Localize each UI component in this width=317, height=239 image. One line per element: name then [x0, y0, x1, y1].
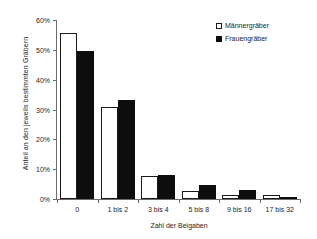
bar-maennergraeber	[101, 107, 118, 199]
bar-maennergraeber	[182, 191, 199, 199]
bar-group	[222, 20, 256, 199]
y-tick-label: 20%	[36, 136, 50, 143]
bar-frauengraeber	[118, 100, 135, 199]
bar-group	[263, 20, 297, 199]
x-tick-label: 0	[75, 206, 79, 213]
y-axis-ticks: 0%10%20%30%40%50%60%	[0, 0, 57, 239]
bar-frauengraeber	[77, 51, 94, 199]
x-tick-mark	[179, 199, 180, 203]
x-tick-mark	[57, 199, 58, 203]
y-tick-label: 60%	[36, 17, 50, 24]
y-tick-label: 30%	[36, 106, 50, 113]
x-tick-mark	[98, 199, 99, 203]
x-tick-label: 9 bis 16	[227, 206, 252, 213]
y-tick-label: 50%	[36, 46, 50, 53]
x-tick-mark	[300, 199, 301, 203]
bar-group	[182, 20, 216, 199]
x-tick-mark	[260, 199, 261, 203]
x-tick-label: 5 bis 8	[188, 206, 209, 213]
bar-frauengraeber	[199, 185, 216, 199]
bar-maennergraeber	[141, 176, 158, 199]
legend-item[interactable]: Frauengräber	[216, 33, 269, 44]
plot-area	[57, 20, 300, 199]
x-tick-label: 17 bis 32	[266, 206, 294, 213]
legend-label: Männergräber	[225, 22, 269, 29]
legend-item[interactable]: Männergräber	[216, 20, 269, 31]
bar-group	[60, 20, 94, 199]
bar-chart: Anteil an den jeweils bestimmten Gräbern…	[0, 0, 317, 239]
y-tick-label: 40%	[36, 76, 50, 83]
y-tick-label: 10%	[36, 166, 50, 173]
x-tick-mark	[219, 199, 220, 203]
x-tick-label: 1 bis 2	[107, 206, 128, 213]
bar-group	[101, 20, 135, 199]
x-tick-label: 3 bis 4	[148, 206, 169, 213]
y-tick-label: 0%	[40, 196, 50, 203]
chart-legend: MännergräberFrauengräber	[216, 20, 269, 46]
bar-frauengraeber	[158, 175, 175, 199]
bar-maennergraeber	[60, 33, 77, 199]
x-tick-mark	[138, 199, 139, 203]
bar-frauengraeber	[239, 190, 256, 199]
bar-group	[141, 20, 175, 199]
legend-swatch-icon	[216, 23, 222, 29]
legend-swatch-icon	[216, 36, 222, 42]
legend-label: Frauengräber	[225, 35, 267, 42]
x-axis-title: Zahl der Beigaben	[57, 222, 301, 229]
